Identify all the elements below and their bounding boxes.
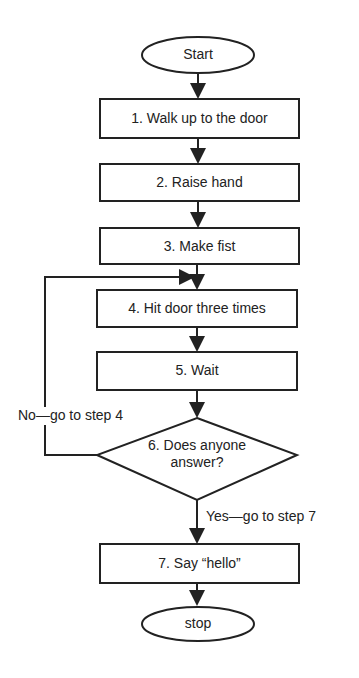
step-2-label: 2. Raise hand — [100, 174, 299, 192]
no-branch-label: No—go to step 4 — [16, 407, 125, 425]
step-1-label: 1. Walk up to the door — [100, 110, 299, 128]
step-5-label: 5. Wait — [97, 362, 297, 380]
start-label: Start — [142, 46, 254, 64]
decision-label-line2: answer? — [97, 454, 297, 472]
stop-label: stop — [142, 615, 254, 633]
step-4-label: 4. Hit door three times — [97, 300, 297, 318]
flowchart-canvas — [0, 0, 359, 678]
step-7-label: 7. Say “hello” — [100, 555, 299, 573]
decision-label-line1: 6. Does anyone — [97, 437, 297, 455]
yes-branch-label: Yes—go to step 7 — [206, 508, 316, 526]
step-3-label: 3. Make fist — [100, 238, 299, 256]
